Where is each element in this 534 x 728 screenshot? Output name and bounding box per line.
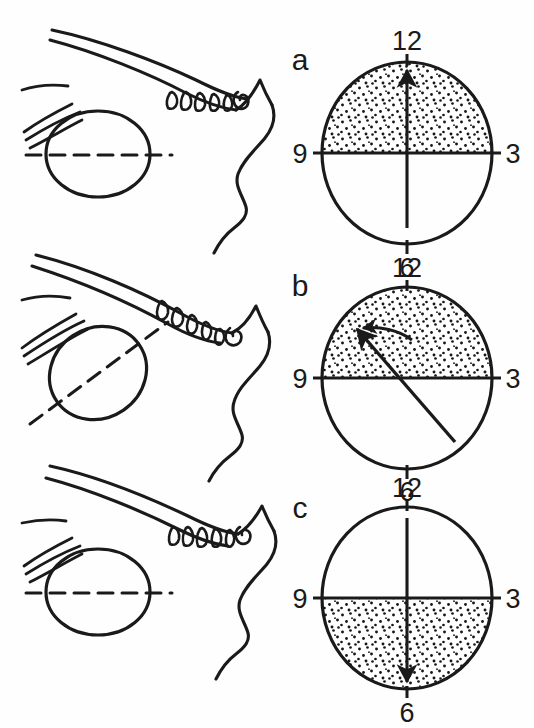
hour-label-12: 12 (392, 473, 422, 503)
hour-label-12: 12 (392, 253, 422, 283)
hour-label-3: 3 (505, 139, 520, 169)
hour-label-3: 3 (505, 584, 520, 614)
hour-label-12: 12 (392, 26, 422, 56)
panel-letter-a: a (292, 43, 309, 76)
hour-label-9: 9 (292, 139, 307, 169)
hour-label-3: 3 (505, 364, 520, 394)
panel-letter-b: b (292, 269, 309, 302)
figure-svg: a 12 3 6 9 (0, 0, 534, 728)
hour-label-9: 9 (292, 584, 307, 614)
figure-canvas: a 12 3 6 9 (0, 0, 534, 728)
hour-label-6: 6 (399, 698, 414, 728)
hour-label-9: 9 (292, 364, 307, 394)
panel-letter-c: c (293, 491, 308, 524)
